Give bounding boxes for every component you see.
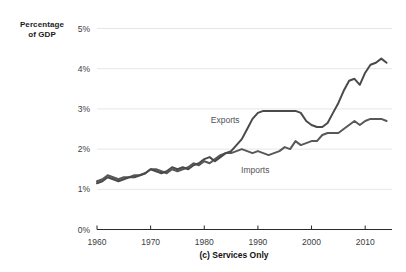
x-tick-label-1960: 1960 <box>88 237 107 247</box>
y-tick-label-1pct: 1% <box>78 184 91 194</box>
x-tick-label-1970: 1970 <box>141 237 160 247</box>
exports-series-label: Exports <box>211 115 240 125</box>
y-axis-title: Percentage of GDP <box>13 20 71 40</box>
plot-area: 0%1%2%3%4%5%196019701980199020002010Impo… <box>0 0 406 272</box>
y-tick-label-2pct: 2% <box>78 144 91 154</box>
y-axis-title-line2: of GDP <box>13 30 71 40</box>
services-trade-chart: Percentage of GDP 0%1%2%3%4%5%1960197019… <box>0 0 406 272</box>
y-axis-title-line1: Percentage <box>13 20 71 30</box>
x-tick-label-2010: 2010 <box>356 237 375 247</box>
y-tick-label-4pct: 4% <box>78 64 91 74</box>
y-tick-label-5pct: 5% <box>78 24 91 34</box>
x-tick-label-1990: 1990 <box>248 237 267 247</box>
y-tick-label-0pct: 0% <box>78 225 91 235</box>
x-tick-label-1980: 1980 <box>195 237 214 247</box>
x-tick-label-2000: 2000 <box>302 237 321 247</box>
imports-series-label: Imports <box>241 165 269 175</box>
chart-caption: (c) Services Only <box>124 250 344 260</box>
y-tick-label-3pct: 3% <box>78 104 91 114</box>
